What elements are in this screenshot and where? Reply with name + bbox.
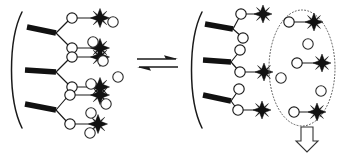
released-complex-3 bbox=[289, 103, 326, 121]
paratope-circle bbox=[65, 90, 75, 100]
elution-down-arrow-icon bbox=[296, 127, 318, 152]
paratope-circle bbox=[233, 105, 243, 115]
left-panel-group bbox=[12, 9, 124, 139]
antibody-stem bbox=[203, 95, 231, 101]
paratope-circle bbox=[292, 58, 302, 68]
paratope-circle-empty bbox=[235, 45, 245, 55]
antigen-starburst bbox=[305, 13, 323, 31]
antigen-starburst bbox=[308, 103, 326, 121]
paratope-circle bbox=[65, 119, 75, 129]
antigen-starburst bbox=[91, 9, 110, 28]
dotted-boundary-ellipse bbox=[269, 10, 335, 126]
released-antigen-compartment bbox=[269, 10, 335, 152]
free-antigen-circle bbox=[276, 73, 286, 83]
paratope-circle bbox=[67, 52, 77, 62]
released-complex-1 bbox=[284, 13, 323, 31]
paratope-circle bbox=[235, 67, 245, 77]
paratope-circle bbox=[284, 17, 294, 27]
free-antigen-circle bbox=[88, 37, 98, 47]
antibody-left-3 bbox=[25, 86, 110, 134]
free-antigen-circle bbox=[303, 39, 313, 49]
free-antigen-circle bbox=[316, 86, 326, 96]
antibody-stem bbox=[25, 70, 56, 72]
free-antigen-cloud-left bbox=[85, 17, 123, 138]
equilibrium-forward-head bbox=[164, 55, 178, 59]
released-complex-2 bbox=[292, 54, 331, 72]
paratope-circle-empty bbox=[238, 33, 248, 43]
paratope-circle bbox=[289, 107, 299, 117]
antigen-starburst bbox=[313, 54, 331, 72]
free-antigen-circle bbox=[86, 108, 96, 118]
antibody-stem bbox=[203, 60, 231, 62]
free-antigen-circle bbox=[85, 128, 95, 138]
antigen-starburst bbox=[254, 5, 272, 23]
equilibrium-arrows bbox=[137, 55, 178, 71]
antibody-left-1 bbox=[27, 9, 110, 58]
antibody-right-3 bbox=[203, 84, 271, 119]
antibody-stem bbox=[205, 24, 233, 29]
free-antigen-circle bbox=[108, 17, 118, 27]
free-antigen-circle bbox=[98, 56, 108, 66]
free-antigen-cloud-right bbox=[276, 39, 326, 96]
free-antigen-circle bbox=[86, 79, 96, 89]
paratope-circle bbox=[236, 9, 246, 19]
free-antigen-circle bbox=[113, 72, 123, 82]
antibody-stem bbox=[27, 27, 56, 33]
right-panel-group bbox=[192, 5, 274, 128]
antibody-right-2 bbox=[203, 45, 273, 81]
antigen-starburst bbox=[255, 63, 273, 81]
paratope-circle-empty bbox=[234, 84, 244, 94]
paratope-circle bbox=[67, 13, 77, 23]
antigen-starburst bbox=[253, 101, 271, 119]
cell-membrane-arc-right bbox=[192, 12, 203, 128]
antibody-left-2 bbox=[25, 48, 110, 97]
cell-membrane-arc-left bbox=[12, 12, 23, 128]
antibody-right-1 bbox=[205, 5, 272, 43]
equilibrium-reverse-head bbox=[137, 67, 151, 71]
free-antigen-circle bbox=[101, 99, 111, 109]
antibody-equilibrium-diagram bbox=[0, 0, 347, 155]
antibody-stem bbox=[25, 104, 56, 110]
diagram-canvas bbox=[0, 0, 347, 155]
